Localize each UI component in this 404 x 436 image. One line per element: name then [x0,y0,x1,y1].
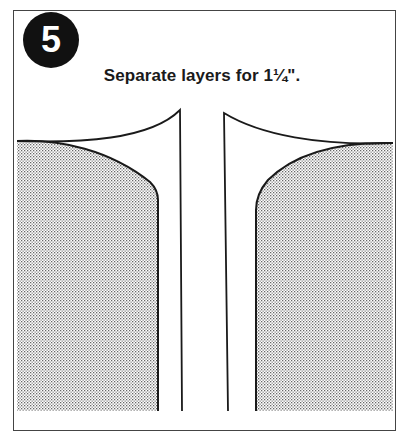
step-number: 5 [41,22,61,58]
right-layer-shaded [256,143,393,411]
step-number-badge: 5 [23,12,79,68]
step-caption: Separate layers for 1¼". [0,66,404,86]
left-layer-shaded [17,141,158,411]
